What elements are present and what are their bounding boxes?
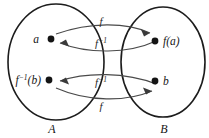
function-inverse-diagram: a f(a) f−1(b) b f f−1 f−1 f A B bbox=[0, 0, 209, 138]
point-b-label: b bbox=[163, 75, 169, 87]
set-a-ellipse bbox=[8, 4, 104, 120]
point-fa-dot bbox=[152, 38, 159, 45]
set-b-label: B bbox=[160, 122, 168, 136]
point-a-label: a bbox=[33, 33, 39, 45]
arrow-finv-bottom-label: f−1 bbox=[95, 75, 107, 88]
diagram-canvas: a f(a) f−1(b) b f f−1 f−1 f A B bbox=[0, 0, 209, 138]
set-b-ellipse bbox=[121, 7, 205, 117]
set-a-label: A bbox=[47, 122, 56, 136]
arrow-f-top-curve bbox=[56, 25, 150, 34]
arrow-finv-top-label: f−1 bbox=[95, 36, 107, 49]
point-finv-b-dot bbox=[46, 77, 53, 84]
arrow-finv-top-label-sup: −1 bbox=[98, 36, 107, 45]
arrow-finv-top-head bbox=[60, 40, 69, 47]
point-finv-b-label-sup: −1 bbox=[19, 73, 28, 82]
point-finv-b-label: f−1(b) bbox=[16, 73, 42, 87]
arrow-f-bottom-label: f bbox=[99, 100, 104, 112]
arrow-finv-top-curve bbox=[60, 41, 156, 51]
point-fa-label: f(a) bbox=[163, 35, 180, 48]
point-b-dot bbox=[152, 78, 159, 85]
arrow-finv-bottom-label-sup: −1 bbox=[98, 75, 107, 84]
point-finv-b-label-tail: (b) bbox=[28, 74, 42, 87]
point-a-dot bbox=[48, 36, 55, 43]
arrow-finv-bottom-curve bbox=[60, 75, 156, 84]
arrow-f-bottom-curve bbox=[56, 88, 152, 99]
